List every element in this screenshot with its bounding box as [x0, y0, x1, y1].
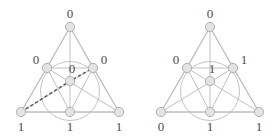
graph-node-bottom-left[interactable] [16, 107, 25, 116]
graph-node-bottom-mid[interactable] [205, 107, 214, 116]
graph-node-mid-left[interactable] [182, 63, 191, 72]
graph-edge [161, 68, 187, 112]
graph-node-apex[interactable] [205, 22, 214, 31]
graph-node-apex[interactable] [65, 22, 74, 31]
graph-node-mid-right[interactable] [228, 63, 237, 72]
node-label-apex: 0 [207, 6, 214, 21]
node-label-mid-right: 1 [241, 52, 248, 67]
node-label-mid-right: 0 [101, 52, 108, 67]
graph-node-bottom-right[interactable] [254, 107, 263, 116]
graph-edge [233, 68, 259, 112]
graph-edge [93, 68, 119, 112]
left-figure: 0000111 [0, 0, 140, 139]
node-label-bottom-mid: 1 [67, 119, 74, 134]
node-label-mid-left: 0 [173, 52, 180, 67]
node-label-apex: 0 [67, 6, 74, 21]
node-label-mid-left: 0 [33, 52, 40, 67]
graph-node-center[interactable] [65, 76, 74, 85]
graph-node-center[interactable] [205, 76, 214, 85]
node-label-center: 0 [69, 61, 76, 76]
graph-node-bottom-right[interactable] [114, 107, 123, 116]
graph-node-bottom-mid[interactable] [65, 107, 74, 116]
right-figure: 0011011 [140, 0, 280, 139]
graph-node-mid-left[interactable] [42, 63, 51, 72]
node-label-bottom-mid: 1 [207, 119, 214, 134]
graph-edge [21, 68, 47, 112]
node-label-bottom-right: 1 [256, 119, 263, 134]
figure-container: 0000111 0011011 [0, 0, 280, 139]
graph-node-mid-right[interactable] [88, 63, 97, 72]
node-label-bottom-right: 1 [116, 119, 123, 134]
node-label-bottom-left: 0 [158, 119, 165, 134]
node-label-bottom-left: 1 [18, 119, 25, 134]
graph-node-bottom-left[interactable] [156, 107, 165, 116]
node-label-center: 1 [209, 61, 216, 76]
